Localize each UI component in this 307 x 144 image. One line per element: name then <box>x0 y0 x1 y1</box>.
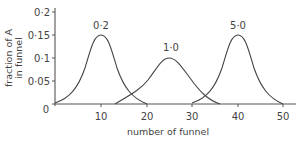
curve-label-5.0: 5·0 <box>230 20 246 31</box>
curve-label-0.2: 0·2 <box>93 20 109 31</box>
curve-5.0 <box>192 35 283 104</box>
x-axis-title: number of funnel <box>127 126 209 137</box>
funnel-distribution-chart: 0·2 0·15 0·1 0·05 0 10 20 30 40 50 numbe… <box>0 0 307 144</box>
curve-0.2 <box>55 35 147 104</box>
x-tick-20: 20 <box>141 111 154 122</box>
x-tick-30: 30 <box>186 111 199 122</box>
x-tick-40: 40 <box>232 111 245 122</box>
curve-label-1.0: 1·0 <box>163 42 179 53</box>
y-tick-0.1: 0·1 <box>34 53 50 64</box>
origin-label: 0 <box>43 104 49 115</box>
y-axis-title-line2: in funnel <box>13 37 24 79</box>
y-tick-0.2: 0·2 <box>34 7 50 18</box>
x-tick-50: 50 <box>277 111 290 122</box>
y-tick-0.15: 0·15 <box>28 30 50 41</box>
y-tick-0.05: 0·05 <box>28 76 50 87</box>
x-tick-10: 10 <box>95 111 108 122</box>
